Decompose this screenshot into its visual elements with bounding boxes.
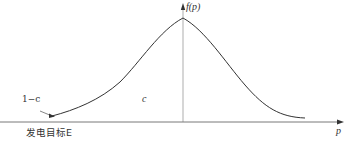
density-curve: [52, 18, 305, 118]
left-tail-label: 1−c: [22, 94, 40, 104]
x-axis-arrow-icon: [337, 120, 344, 125]
diagram-canvas: [0, 0, 349, 141]
y-axis-arrow-icon: [181, 3, 185, 10]
y-axis-label: f(p): [186, 1, 200, 12]
area-label: c: [142, 93, 146, 104]
generation-target-label: 发电目标E: [26, 125, 72, 139]
x-axis-label: p: [336, 125, 341, 136]
